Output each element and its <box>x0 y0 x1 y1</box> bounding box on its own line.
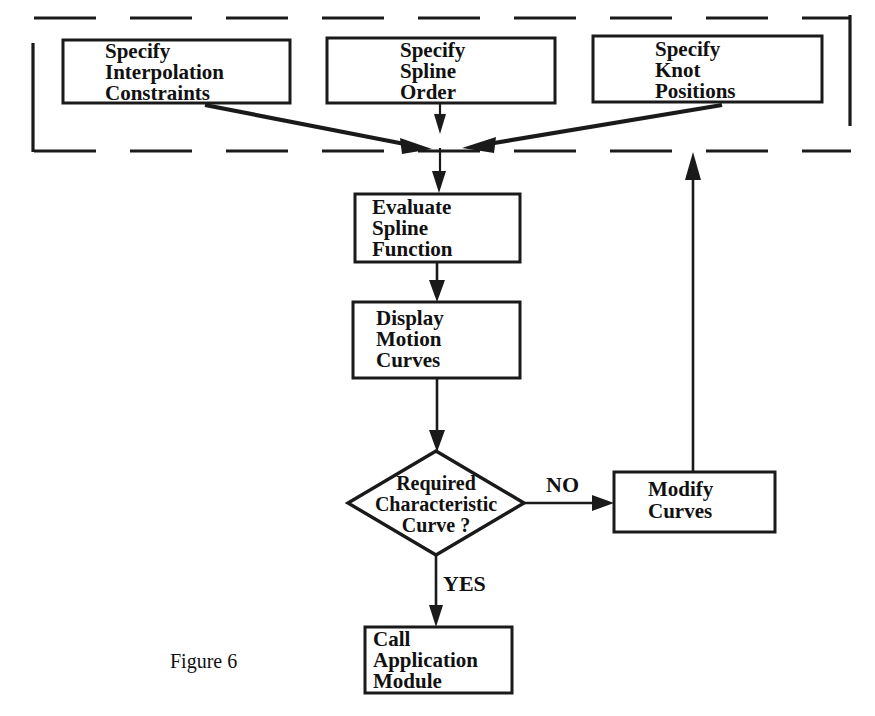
node-label-line-1: Modify <box>648 477 714 501</box>
node-label-line-3: Constraints <box>105 81 210 105</box>
node-modify-curves[interactable]: Modify Curves <box>614 472 775 532</box>
node-call-application-module[interactable]: Call Application Module <box>365 627 512 693</box>
arrow-head-icon <box>432 171 446 193</box>
node-label-line-3: Positions <box>655 79 736 103</box>
arrow-head-icon <box>685 152 701 180</box>
node-specify-knot-positions[interactable]: Specify Knot Positions <box>593 36 822 103</box>
node-display-motion-curves[interactable]: Display Motion Curves <box>353 302 520 378</box>
node-label-line-3: Module <box>373 669 442 693</box>
edge-modify-to-group <box>685 152 701 472</box>
edge-line <box>482 105 722 145</box>
node-specify-spline-order[interactable]: Specify Spline Order <box>327 38 555 104</box>
decision-label-line-1: Required <box>396 472 476 495</box>
figure-caption: Figure 6 <box>170 650 237 673</box>
decision-label-line-2: Characteristic <box>375 493 497 515</box>
edge-display-to-decision <box>429 378 445 452</box>
arrow-head-icon <box>434 114 446 134</box>
edge-label-yes: YES <box>443 571 486 596</box>
node-label-line-3: Order <box>400 80 456 104</box>
node-specify-interpolation-constraints[interactable]: Specify Interpolation Constraints <box>63 39 290 105</box>
edge-spline-order-to-junction <box>434 103 446 134</box>
arrow-head-icon <box>429 605 443 627</box>
arrow-head-icon <box>429 430 445 452</box>
edge-constraints-to-junction <box>205 105 432 154</box>
arrow-head-icon <box>592 495 614 511</box>
edge-decision-yes-to-call: YES <box>429 555 486 627</box>
edge-knot-positions-to-junction <box>462 105 722 153</box>
node-required-characteristic-curve[interactable]: Required Characteristic Curve ? <box>348 451 524 555</box>
edge-line <box>205 105 415 146</box>
node-label-line-2: Curves <box>648 499 712 523</box>
edge-label-no: NO <box>546 472 579 497</box>
edge-decision-no-to-modify: NO <box>524 472 614 511</box>
node-label-line-3: Function <box>372 237 453 261</box>
arrow-head-icon <box>429 280 445 302</box>
flowchart-canvas: Specify Interpolation Constraints Specif… <box>0 0 875 716</box>
edge-evaluate-to-display <box>429 262 445 302</box>
edge-junction-to-evaluate <box>432 148 446 193</box>
node-label-line-3: Curves <box>376 348 440 372</box>
node-evaluate-spline-function[interactable]: Evaluate Spline Function <box>355 194 520 262</box>
flowchart-figure: Specify Interpolation Constraints Specif… <box>0 0 875 716</box>
decision-label-line-3: Curve ? <box>402 514 470 536</box>
